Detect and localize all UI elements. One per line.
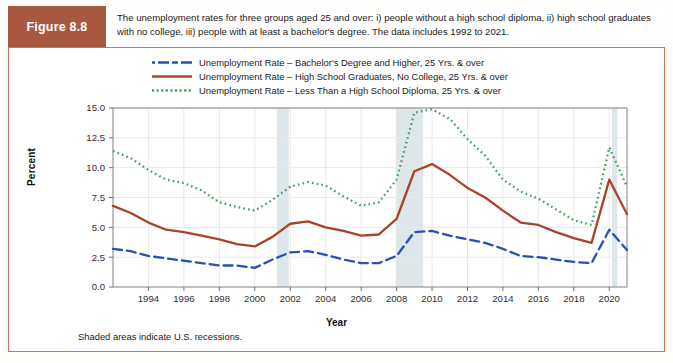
x-tick-label: 2004 bbox=[315, 293, 337, 304]
figure-container: Figure 8.8 The unemployment rates for th… bbox=[0, 0, 673, 363]
y-axis-title: Percent bbox=[26, 148, 37, 186]
y-tick-label: 10.0 bbox=[86, 162, 105, 173]
legend-label-highschool: Unemployment Rate – High School Graduate… bbox=[199, 71, 508, 82]
legend-label-lessthanhs: Unemployment Rate – Less Than a High Sch… bbox=[199, 85, 501, 96]
y-tick-label: 12.5 bbox=[86, 132, 105, 143]
figure-caption-text: The unemployment rates for three groups … bbox=[106, 6, 665, 47]
y-tick-label: 7.5 bbox=[92, 192, 105, 203]
chart-series-line bbox=[113, 109, 627, 225]
chart-plot-area: 0.02.55.07.510.012.515.01994199619982000… bbox=[0, 96, 673, 321]
y-tick-label: 2.5 bbox=[92, 252, 105, 263]
legend-swatch-dashed-icon bbox=[152, 57, 192, 68]
x-tick-label: 2020 bbox=[599, 293, 620, 304]
x-tick-label: 2000 bbox=[244, 293, 265, 304]
legend-label-bachelors: Unemployment Rate – Bachelor's Degree an… bbox=[199, 57, 484, 68]
y-tick-label: 5.0 bbox=[92, 222, 105, 233]
x-tick-label: 2012 bbox=[457, 293, 478, 304]
chart-legend: Unemployment Rate – Bachelor's Degree an… bbox=[152, 56, 582, 98]
x-tick-label: 2018 bbox=[563, 293, 584, 304]
x-axis-title: Year bbox=[0, 317, 673, 328]
figure-number-tab: Figure 8.8 bbox=[8, 6, 106, 47]
x-tick-label: 2006 bbox=[350, 293, 371, 304]
legend-swatch-dotted-icon bbox=[152, 85, 192, 96]
x-tick-label: 1994 bbox=[138, 293, 160, 304]
x-tick-label: 1996 bbox=[173, 293, 194, 304]
x-tick-label: 2002 bbox=[280, 293, 301, 304]
x-tick-label: 2016 bbox=[528, 293, 549, 304]
legend-item-highschool: Unemployment Rate – High School Graduate… bbox=[152, 70, 582, 83]
legend-item-bachelors: Unemployment Rate – Bachelor's Degree an… bbox=[152, 56, 582, 69]
legend-swatch-solid-icon bbox=[152, 71, 192, 82]
y-tick-label: 15.0 bbox=[86, 102, 105, 113]
x-tick-label: 1998 bbox=[209, 293, 230, 304]
x-tick-label: 2014 bbox=[492, 293, 514, 304]
y-tick-label: 0.0 bbox=[92, 281, 105, 292]
chart-series-line bbox=[113, 164, 627, 246]
chart-svg: 0.02.55.07.510.012.515.01994199619982000… bbox=[0, 96, 673, 321]
x-tick-label: 2010 bbox=[421, 293, 442, 304]
figure-caption-bar: Figure 8.8 The unemployment rates for th… bbox=[8, 6, 665, 48]
figure-footnote: Shaded areas indicate U.S. recessions. bbox=[78, 331, 242, 342]
x-tick-label: 2008 bbox=[386, 293, 407, 304]
